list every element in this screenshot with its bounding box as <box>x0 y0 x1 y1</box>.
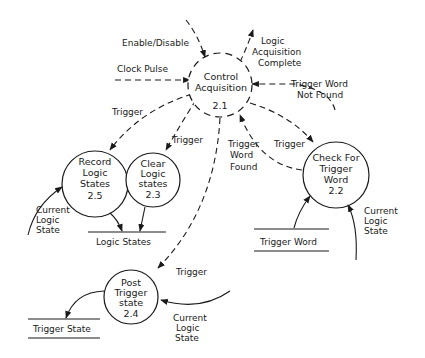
process-2-1-number: 2.1 <box>212 100 227 111</box>
label-cls-record-2: Logic <box>36 215 60 225</box>
flow-trigger-word-to-check <box>294 196 310 228</box>
process-2-4-line-3: state <box>119 297 143 308</box>
label-trigger-post: Trigger <box>175 267 207 277</box>
process-control-acquisition: Control Acquisition 2.1 <box>188 53 252 117</box>
label-cls-post-3: State <box>175 333 199 343</box>
label-cls-check-1: Current <box>364 206 398 216</box>
label-cls-check-3: State <box>364 226 388 236</box>
label-cls-record-1: Current <box>36 205 70 215</box>
store-trigger-word-label: Trigger Word <box>259 237 317 247</box>
label-logic-acq-3: Complete <box>258 58 302 68</box>
process-2-2-line-3: Word <box>324 174 348 185</box>
label-cls-post-2: Logic <box>176 323 200 333</box>
label-cls-record-3: State <box>36 225 60 235</box>
data-flow-diagram: Enable/Disable Clock Pulse Logic Acquisi… <box>0 0 425 358</box>
process-2-5-number: 2.5 <box>87 190 102 201</box>
label-cls-check-2: Logic <box>364 216 388 226</box>
store-trigger-state: Trigger State <box>28 319 100 338</box>
process-2-2-line-1: Check For <box>312 152 359 163</box>
store-trigger-state-label: Trigger State <box>32 324 91 334</box>
label-trigger-clear: Trigger <box>171 135 203 145</box>
process-2-5-line-1: Record <box>79 156 112 167</box>
flow-post-to-trigger-state <box>66 291 104 318</box>
label-not-found-2: Not Found <box>297 90 343 100</box>
label-trigger-check: Trigger <box>273 139 305 149</box>
flow-current-logic-state-check <box>348 205 356 260</box>
flow-logic-acquisition-complete <box>240 30 253 62</box>
process-2-2-line-2: Trigger <box>319 163 353 174</box>
store-logic-states-label: Logic States <box>96 237 151 247</box>
label-not-found-1: Trigger Word <box>290 79 348 89</box>
flow-clear-to-logic-states <box>140 207 145 231</box>
label-clock-pulse: Clock Pulse <box>117 64 168 74</box>
label-word-found-3: Found <box>230 162 257 172</box>
flow-current-logic-state-post <box>161 291 230 304</box>
flow-trigger-to-check <box>250 103 313 142</box>
flow-record-to-logic-states <box>110 213 122 231</box>
label-logic-acq-1: Logic <box>261 36 285 46</box>
process-clear-logic-states: Clear Logic states 2.3 <box>126 153 180 207</box>
process-2-3-number: 2.3 <box>145 189 160 200</box>
process-2-1-line-1: Control <box>204 71 238 82</box>
process-2-4-number: 2.4 <box>123 308 138 319</box>
store-trigger-word: Trigger Word <box>254 229 329 251</box>
process-check-for-trigger-word: Check For Trigger Word 2.2 <box>303 142 369 208</box>
label-logic-acq-2: Acquisition <box>252 47 301 57</box>
process-2-2-number: 2.2 <box>328 185 343 196</box>
process-2-1-line-2: Acquisition <box>195 82 247 93</box>
process-2-5-line-3: States <box>80 178 110 189</box>
label-word-found-2: Word <box>230 150 253 160</box>
label-word-found-1: Trigger <box>227 139 259 149</box>
process-record-logic-states: Record Logic States 2.5 <box>62 151 128 217</box>
label-trigger-record: Trigger <box>111 107 143 117</box>
process-2-3-line-3: states <box>138 178 167 189</box>
process-2-5-line-2: Logic <box>83 167 108 178</box>
process-post-trigger-state: Post Trigger state 2.4 <box>104 270 158 324</box>
label-cls-post-1: Current <box>173 313 207 323</box>
label-enable-disable: Enable/Disable <box>122 38 190 48</box>
store-logic-states: Logic States <box>88 232 166 247</box>
